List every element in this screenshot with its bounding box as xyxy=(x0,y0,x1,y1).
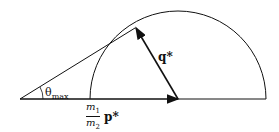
mass-ratio-fraction: m1 m2 xyxy=(86,102,100,131)
momentum-diagram: θmax q* m1 m2 p* xyxy=(0,0,279,132)
theta-max-label: θmax xyxy=(45,87,69,101)
mass-ratio-p-label: m1 m2 p* xyxy=(86,102,119,131)
tangent-line xyxy=(20,28,135,99)
diagram-geometry xyxy=(0,0,279,132)
p-star-label: p* xyxy=(104,111,119,123)
angle-arc xyxy=(40,87,43,99)
semicircle xyxy=(90,11,266,99)
q-star-label: q* xyxy=(158,51,173,63)
